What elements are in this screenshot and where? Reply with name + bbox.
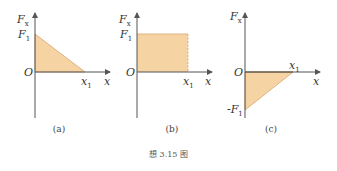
y-tick-b: F1 bbox=[119, 28, 132, 43]
panel-c: Fx O x1 x -F1 (c) bbox=[227, 10, 320, 134]
figure-caption: 想 3.15 图 bbox=[0, 148, 337, 159]
panel-b: Fx F1 O x1 x (b) bbox=[118, 13, 212, 134]
origin-a: O bbox=[24, 66, 33, 79]
panel-label-c: (c) bbox=[265, 124, 277, 134]
x-axis-label-a: x bbox=[104, 75, 111, 88]
y-tick-c: -F1 bbox=[227, 103, 243, 118]
y-tick-a: F1 bbox=[17, 28, 30, 43]
x-tick-c: x1 bbox=[289, 59, 300, 74]
area-a bbox=[35, 34, 85, 72]
area-b bbox=[137, 34, 188, 72]
y-axis-label-b: Fx bbox=[118, 13, 131, 28]
y-axis-label-a: Fx bbox=[16, 13, 29, 28]
panel-a: Fx F1 O x1 x (a) bbox=[16, 13, 111, 134]
panel-label-b: (b) bbox=[166, 124, 179, 134]
x-axis-label-b: x bbox=[205, 75, 212, 88]
panel-label-a: (a) bbox=[53, 124, 65, 134]
x-axis-label-c: x bbox=[313, 75, 320, 88]
diagram: Fx F1 O x1 x (a) Fx F1 O x1 x (b) Fx O x… bbox=[0, 0, 337, 171]
y-axis-label-c: Fx bbox=[229, 10, 242, 25]
x-tick-b: x1 bbox=[183, 75, 194, 90]
x-tick-a: x1 bbox=[81, 75, 92, 90]
origin-c: O bbox=[234, 66, 243, 79]
area-c bbox=[245, 72, 293, 110]
origin-b: O bbox=[126, 66, 135, 79]
